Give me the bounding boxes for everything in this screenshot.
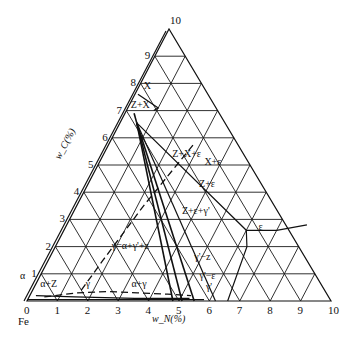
phase-region-label: Z+X <box>131 99 151 110</box>
c-tick-label: 8 <box>131 76 137 88</box>
phase-region-label: ε <box>258 221 262 232</box>
c-tick-label: 3 <box>60 212 66 224</box>
phase-region-label: α <box>20 270 26 281</box>
diagram-labels: 01234567891012345678910Few_N(%)w_C(%)αα+… <box>18 14 340 327</box>
c-tick-label: 6 <box>102 131 108 143</box>
phase-boundaries <box>36 94 307 301</box>
n-tick-label: 7 <box>237 304 243 316</box>
n-tick-label: 6 <box>206 304 212 316</box>
c-tick-label: 5 <box>88 158 94 170</box>
boundary-zeps <box>137 123 173 301</box>
n-tick-label: 3 <box>115 304 121 316</box>
c-tick-label: 7 <box>116 104 122 116</box>
phase-region-label: α+γ <box>131 278 147 289</box>
n-axis-label: w_N(%) <box>152 313 186 325</box>
boundary-top <box>134 113 137 123</box>
n-tick-label: 1 <box>54 304 60 316</box>
phase-region-label: Z+X+ε <box>172 148 201 159</box>
n-tick-label: 8 <box>267 304 273 316</box>
c-tick-label: 1 <box>31 267 37 279</box>
phase-region-label: Z+ε <box>199 178 215 189</box>
phase-region-label: γ'−z <box>193 251 211 262</box>
phase-region-label: γ'−ε <box>198 270 215 281</box>
phase-region-label: γ <box>85 278 91 289</box>
phase-region-label: X <box>144 80 152 91</box>
n-tick-label: 10 <box>328 304 340 316</box>
phase-region-label: γ=α+γ'+z <box>111 240 150 251</box>
n-tick-label: 4 <box>146 304 152 316</box>
grid-line-n <box>301 274 315 301</box>
c-tick-label: 9 <box>145 49 151 61</box>
phase-region-label: γ' <box>205 281 212 292</box>
c-axis-label: w_C(%) <box>52 126 79 162</box>
c-tick-label: 4 <box>74 185 80 197</box>
fe-corner-label: Fe <box>18 315 29 327</box>
phase-region-label: X+ε <box>204 156 221 167</box>
phase-region-label: Z+ε+γ' <box>182 205 210 216</box>
n-tick-label: 9 <box>298 304 304 316</box>
grid-line-fe <box>155 56 301 301</box>
boundary-eps-gamma <box>228 230 247 301</box>
boundary-xeps <box>137 123 307 230</box>
phase-region-label: α+Z <box>40 278 57 289</box>
c-tick-label: 2 <box>45 240 51 252</box>
ternary-phase-diagram: 01234567891012345678910Few_N(%)w_C(%)αα+… <box>0 0 353 340</box>
n-tick-label: 2 <box>85 304 91 316</box>
c-tick-label: 10 <box>170 14 182 26</box>
